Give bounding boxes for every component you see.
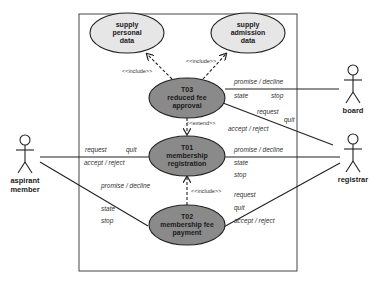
use-case-t02-text: T02 membership fee payment [149, 206, 225, 244]
uc-line: data [241, 37, 255, 45]
assoc-label-promise-decline: promise / decline [234, 79, 283, 86]
use-case-t01-text: T01 membership registration [149, 137, 225, 175]
actor-aspirant-member-label: aspirant member [4, 177, 46, 194]
uc-line: membership fee [160, 221, 214, 229]
assoc-label-quit: quit [284, 117, 294, 124]
use-case-supply-personal-data-text: supply personal data [90, 14, 164, 52]
use-case-t03-text: T03 reduced fee approval [149, 79, 225, 117]
assoc-label-accept-reject: accept / reject [228, 126, 268, 133]
actor-aspirant-member-icon[interactable] [16, 135, 34, 173]
assoc-label-stop: stop [101, 218, 113, 225]
assoc-label-accept-reject: accept / reject [234, 218, 274, 225]
assoc-label-quit: quit [234, 205, 244, 212]
assoc-label-request: request [234, 192, 256, 199]
uc-line: data [120, 37, 134, 45]
uc-line: reduced fee [167, 94, 206, 102]
assoc-label-quit: quit [126, 147, 136, 154]
assoc-label-state: state [234, 160, 248, 167]
include-arrow-personal [147, 54, 172, 79]
actor-registrar-icon[interactable] [344, 134, 362, 172]
uc-line: membership [166, 152, 208, 160]
actor-board-icon[interactable] [344, 65, 362, 103]
uc-line: registration [168, 160, 207, 168]
include-label-t02-t01: <<include>> [191, 189, 221, 195]
actor-board-label: board [333, 107, 373, 116]
assoc-label-state: state [234, 93, 248, 100]
uc-line: supply [116, 21, 139, 29]
use-case-diagram: aspirant member board registrar supply p… [0, 0, 377, 281]
uc-line: personal [112, 29, 141, 37]
include-label-admission: <<include>> [186, 59, 216, 65]
use-case-supply-admission-data-text: supply admission data [211, 14, 285, 52]
assoc-label-accept-reject: accept / reject [84, 160, 124, 167]
uc-line: admission [231, 29, 266, 37]
actor-name-line2: member [4, 186, 46, 195]
uc-line: T01 [181, 144, 193, 152]
extend-label: <<extend>> [186, 121, 215, 127]
assoc-label-request: request [257, 109, 279, 116]
include-label-personal: <<include>> [122, 69, 152, 75]
assoc-aspirant-t02 [40, 162, 148, 226]
assoc-label-request: request [85, 147, 107, 154]
assoc-label-stop: stop [234, 172, 246, 179]
assoc-label-promise-decline: promise / decline [234, 147, 283, 154]
uc-line: T03 [181, 86, 193, 94]
assoc-label-state: state [101, 206, 115, 213]
assoc-label-promise-decline: promise / decline [101, 183, 150, 190]
actor-name-line1: registrar [330, 176, 376, 185]
assoc-label-stop: stop [271, 93, 283, 100]
uc-line: approval [172, 102, 201, 110]
uc-line: payment [173, 229, 202, 237]
uc-line: supply [237, 21, 260, 29]
actor-registrar-label: registrar [330, 176, 376, 185]
actor-name-line1: board [333, 107, 373, 116]
uc-line: T02 [181, 213, 193, 221]
